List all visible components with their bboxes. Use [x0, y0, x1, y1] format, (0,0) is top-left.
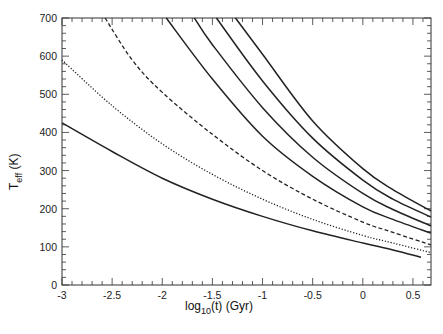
y-tick-label: 300: [39, 165, 57, 177]
tick-labels: -3-2.5-2-1.5-1-0.500.5010020030040050060…: [39, 12, 420, 301]
y-tick-label: 600: [39, 50, 57, 62]
x-tick-label: -0.5: [304, 289, 322, 301]
curve-6-line: [216, 18, 431, 217]
x-tick-label: -3: [57, 289, 66, 301]
y-tick-label: 200: [39, 203, 57, 215]
y-tick-label: 700: [39, 12, 57, 24]
x-tick-label: -2: [158, 289, 167, 301]
y-tick-label: 100: [39, 241, 57, 253]
axis-ticks: [62, 18, 431, 285]
x-tick-label: 0.5: [406, 289, 421, 301]
y-tick-label: 400: [39, 126, 57, 138]
y-tick-label: 0: [51, 279, 57, 291]
x-axis-label: log10(t) (Gyr): [185, 299, 253, 316]
curve-7-line: [235, 18, 431, 211]
curves: [62, 18, 431, 257]
x-tick-label: -2.5: [103, 289, 121, 301]
plot-frame: [62, 18, 431, 285]
chart: -3-2.5-2-1.5-1-0.500.5010020030040050060…: [0, 0, 443, 334]
x-tick-label: 0: [360, 289, 366, 301]
curve-4-line: [166, 18, 431, 233]
curve-3-line: [105, 18, 431, 245]
y-axis-label: Teff (K): [7, 153, 24, 190]
y-tick-label: 500: [39, 88, 57, 100]
x-tick-label: -1: [258, 289, 267, 301]
